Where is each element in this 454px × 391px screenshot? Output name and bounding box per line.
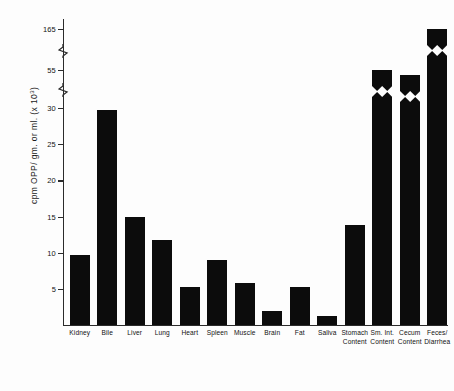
bar-liver	[125, 217, 145, 326]
bar-spleen	[207, 260, 227, 325]
y-axis-title-tail: )	[29, 87, 39, 90]
bar-series	[63, 19, 448, 326]
bar-break-marker	[372, 83, 392, 94]
bar-kidney	[70, 255, 90, 325]
label-line-1: Muscle	[234, 329, 256, 336]
tick-label: 55	[47, 66, 56, 75]
bar-muscle	[235, 283, 255, 325]
plot-area: 5101520253055165	[63, 19, 448, 326]
label-line-1: Cecum	[399, 329, 420, 336]
bar-heart	[180, 287, 200, 325]
y-axis-title-exponent: 3	[29, 90, 35, 94]
label-line-1: Heart	[181, 329, 198, 336]
bar-brain	[262, 311, 282, 325]
bar-chart-figure: cpm OPP/ gm. or ml. (x 103) 510152025305…	[0, 0, 454, 391]
bar-bile	[97, 110, 117, 325]
bar-break-marker	[427, 42, 447, 53]
bar-cecum-content	[400, 75, 420, 325]
label-line-1: Spleen	[207, 329, 228, 336]
tick-label: 20	[47, 176, 56, 185]
bar-stomach-content	[345, 225, 365, 325]
y-axis-break-1	[58, 83, 70, 96]
label-line-2: Diarrhea	[419, 338, 454, 347]
tick-label: 25	[47, 140, 56, 149]
bar-break-marker	[400, 88, 420, 99]
y-axis-title-text: cpm OPP/ gm. or ml. (x 10	[29, 94, 39, 204]
bar-feces-diarrhea	[427, 29, 447, 325]
tick-label: 5	[52, 284, 56, 293]
tick-label: 10	[47, 248, 56, 257]
x-axis-labels: KidneyBileLiverLungHeartSpleenMuscleBrai…	[63, 329, 448, 389]
label-line-1: Saliva	[318, 329, 337, 336]
tick-label: 30	[47, 104, 56, 113]
y-axis-title: cpm OPP/ gm. or ml. (x 103)	[29, 45, 40, 245]
label-line-1: Feces/	[427, 329, 447, 336]
bar-saliva	[317, 316, 337, 325]
label-line-1: Liver	[127, 329, 142, 336]
tick-label: 15	[47, 212, 56, 221]
bar-sm-int-content	[372, 70, 392, 325]
tick-label: 165	[43, 25, 56, 34]
label-line-1: Brain	[264, 329, 280, 336]
label-line-1: Bile	[102, 329, 113, 336]
x-axis-label-feces-diarrhea: Feces/Diarrhea	[419, 329, 454, 346]
label-line-1: Kidney	[69, 329, 90, 336]
y-axis-break-2	[58, 44, 70, 57]
bar-lung	[152, 240, 172, 325]
label-line-1: Lung	[155, 329, 170, 336]
bar-fat	[290, 287, 310, 325]
label-line-1: Fat	[295, 329, 305, 336]
